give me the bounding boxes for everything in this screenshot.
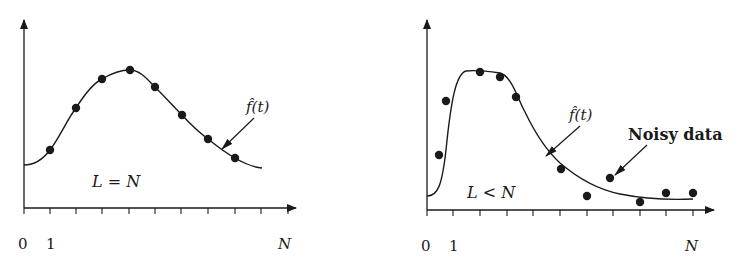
x-tick-label-n: N <box>277 235 292 253</box>
fitted-curve <box>24 70 262 168</box>
left-panel: f̂(t) L = N 0 1 N <box>18 20 296 253</box>
condition-label: L < N <box>466 183 516 202</box>
noisy-data-label: Noisy data <box>628 125 723 144</box>
condition-label: L = N <box>91 172 141 191</box>
curve-label-arrow <box>222 118 254 149</box>
curve-label-arrow <box>546 126 580 156</box>
x-ticks <box>24 208 288 214</box>
curve-label: f̂(t) <box>245 98 269 116</box>
noisy-data-arrow <box>615 145 647 175</box>
x-tick-label-0: 0 <box>421 237 431 255</box>
curve-label: f̂(t) <box>568 106 592 124</box>
right-panel: f̂(t) Noisy data L < N 0 1 N <box>421 20 723 255</box>
diagram: f̂(t) L = N 0 1 N <box>0 0 740 273</box>
x-tick-label-0: 0 <box>18 235 28 253</box>
x-ticks <box>427 210 693 216</box>
x-tick-label-n: N <box>684 237 699 255</box>
data-points <box>46 66 239 162</box>
x-tick-label-1: 1 <box>46 235 56 253</box>
x-tick-label-1: 1 <box>449 237 459 255</box>
